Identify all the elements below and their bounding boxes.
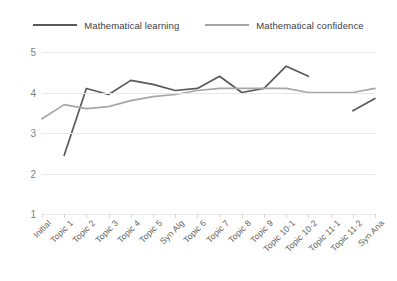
x-axis-label: Topic 4 <box>115 218 142 245</box>
gridline-y-3 <box>42 133 375 134</box>
legend-item-mathematical-learning[interactable]: Mathematical learning <box>33 20 179 31</box>
y-tick-label-3: 3 <box>30 128 36 139</box>
legend-item-mathematical-confidence[interactable]: Mathematical confidence <box>205 20 363 31</box>
gridline-y-2 <box>42 174 375 175</box>
y-tick-label-4: 4 <box>30 87 36 98</box>
x-axis-label: Topic 7 <box>204 218 231 245</box>
x-axis-label: Topic 8 <box>226 218 253 245</box>
legend-label-mathematical-confidence: Mathematical confidence <box>256 20 363 31</box>
series-line-mathematical-learning <box>64 66 308 155</box>
legend-label-mathematical-learning: Mathematical learning <box>84 20 179 31</box>
y-axis: 12345 <box>0 52 36 214</box>
x-axis-label: Topic 2 <box>71 218 98 245</box>
x-axis-labels: InitialTopic 1Topic 2Topic 3Topic 4Topic… <box>0 218 397 280</box>
chart-legend: Mathematical learning Mathematical confi… <box>0 16 397 34</box>
legend-swatch-mathematical-confidence <box>205 24 249 26</box>
legend-swatch-mathematical-learning <box>33 24 77 26</box>
series-line-mathematical-learning <box>353 99 375 111</box>
y-tick-label-5: 5 <box>30 47 36 58</box>
plot-area <box>42 52 375 214</box>
y-tick-label-2: 2 <box>30 168 36 179</box>
line-chart: Mathematical learning Mathematical confi… <box>0 0 397 281</box>
x-axis-label: Topic 3 <box>93 218 120 245</box>
gridline-y-5 <box>42 52 375 53</box>
x-axis-label: Topic 6 <box>182 218 209 245</box>
x-axis-label: Topic 1 <box>48 218 75 245</box>
gridline-y-4 <box>42 93 375 94</box>
